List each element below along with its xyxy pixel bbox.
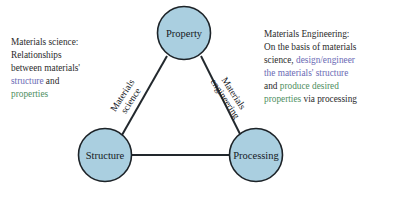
right-structure-highlight: the materials' structure <box>264 68 348 78</box>
right-text-line-2: On the basis of materials <box>264 41 357 54</box>
materials-science-description: Materials science: Relationships between… <box>11 36 80 101</box>
structure-label: Structure <box>86 150 125 161</box>
left-text-line-1: Materials science: <box>11 36 80 49</box>
left-text-line-2: Relationships <box>11 49 80 62</box>
left-text-line-3: between materials' <box>11 62 80 75</box>
right-text-line-1: Materials Engineering: <box>264 28 357 41</box>
processing-label: Processing <box>233 150 279 161</box>
left-properties-highlight: properties <box>11 89 48 99</box>
right-produce-desired-highlight: produce desired <box>280 81 339 91</box>
right-line-5-plain: and <box>264 81 280 91</box>
node-structure[interactable]: Structure <box>79 129 132 182</box>
left-text-line-4: structure and <box>11 75 80 88</box>
right-text-line-5: and produce desired <box>264 80 357 93</box>
node-property[interactable]: Property <box>158 7 211 60</box>
edge-label-materials-engineering: Materials engineering <box>209 71 251 121</box>
right-design-engineer-highlight: design/engineer <box>296 55 355 65</box>
left-line-4-plain: and <box>44 76 60 86</box>
right-text-line-3: science, design/engineer <box>264 54 357 67</box>
right-text-line-6: properties via processing <box>264 93 357 106</box>
left-text-line-5: properties <box>11 88 80 101</box>
node-processing[interactable]: Processing <box>230 129 283 182</box>
materials-engineering-description: Materials Engineering: On the basis of m… <box>264 28 357 107</box>
edge-label-materials-science: Materials science <box>108 77 145 119</box>
right-properties-highlight: properties <box>264 94 301 104</box>
right-line-6-plain: via processing <box>301 94 357 104</box>
right-line-3-plain: science, <box>264 55 296 65</box>
right-text-line-4: the materials' structure <box>264 67 357 80</box>
property-label: Property <box>166 28 203 39</box>
materials-science-tetrahedron-diagram: Property Structure Processing Materials … <box>0 0 393 201</box>
left-structure-highlight: structure <box>11 76 44 86</box>
